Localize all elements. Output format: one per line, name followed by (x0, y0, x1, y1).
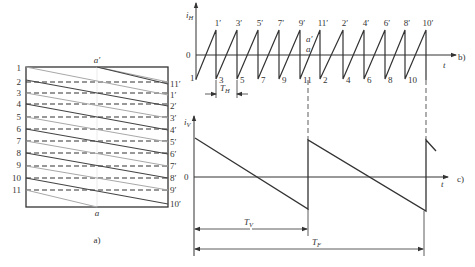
line-label: 10 (12, 173, 22, 183)
svg-text:2′: 2′ (342, 18, 349, 28)
x-axis-label: t (441, 179, 444, 189)
zero-label: 0 (184, 172, 189, 182)
peak-labels: 1′ 3′ 5′ 7′ 9′ 11′ 2′ 4′ 6′ 8′ 10′ (215, 18, 434, 28)
th-period-label: TH (220, 83, 230, 94)
line-label: 10′ (170, 199, 181, 209)
line-label: 6 (17, 124, 22, 134)
svg-text:6′: 6′ (384, 18, 391, 28)
panel-c-caption: c) (457, 174, 464, 184)
svg-text:10: 10 (408, 75, 418, 85)
top-point-label: a′ (94, 55, 102, 65)
a-label: a (306, 44, 311, 54)
svg-text:4: 4 (346, 75, 351, 85)
line-label: 4′ (170, 125, 177, 135)
line-label: 5 (17, 112, 22, 122)
line-label: 3 (17, 88, 22, 98)
line-label: 8 (17, 148, 22, 158)
line-label: 1 (17, 63, 22, 73)
line-label: 11′ (170, 79, 181, 89)
line-label: 11 (12, 185, 21, 195)
svg-text:3′: 3′ (236, 18, 243, 28)
panel-b-horizontal-current: iH 0 t b) 1′ 3′ 5′ 7′ 9′ 11′ 2′ 4′ 6′ 8′… (186, 3, 466, 140)
svg-text:9′: 9′ (299, 18, 306, 28)
right-line-labels: 11′ 1′ 2′ 3′ 4′ 5′ 6′ 7′ 8′ 9′ 10′ (170, 79, 181, 209)
svg-text:10′: 10′ (423, 18, 434, 28)
svg-text:4′: 4′ (363, 18, 370, 28)
y-axis-label: iH (186, 10, 194, 21)
panel-b-caption: b) (458, 52, 466, 62)
zero-label: 0 (186, 50, 191, 60)
left-line-labels: 1 2 3 4 5 6 7 8 9 10 11 (12, 63, 22, 195)
y-axis-label: iV (184, 117, 192, 128)
svg-text:8: 8 (388, 75, 393, 85)
tf-period-label: TF (312, 237, 322, 248)
svg-text:5: 5 (240, 75, 245, 85)
line-label: 7′ (170, 161, 177, 171)
svg-text:11′: 11′ (318, 18, 329, 28)
vertical-sawtooth-waveform (195, 138, 436, 211)
a-prime-label: a′ (306, 34, 314, 44)
panel-a-caption: a) (94, 235, 101, 245)
bottom-point-label: a (95, 208, 100, 218)
svg-text:5′: 5′ (257, 18, 264, 28)
line-label: 2′ (170, 101, 177, 111)
line-label: 4 (17, 99, 22, 109)
x-axis-label: t (443, 60, 446, 70)
tv-period-label: TV (244, 217, 254, 228)
svg-text:1′: 1′ (215, 18, 222, 28)
svg-text:7: 7 (261, 75, 266, 85)
svg-text:6: 6 (367, 75, 372, 85)
line-label: 3′ (170, 113, 177, 123)
svg-text:2: 2 (323, 75, 328, 85)
line-label: 7 (17, 136, 22, 146)
svg-text:1: 1 (190, 73, 195, 83)
svg-text:11: 11 (303, 75, 312, 85)
line-label: 1′ (170, 90, 177, 100)
svg-text:8′: 8′ (404, 18, 411, 28)
line-label: 9′ (170, 185, 177, 195)
line-label: 5′ (170, 137, 177, 147)
line-label: 2 (17, 77, 22, 87)
panel-c-vertical-current: iV 0 t c) TV TF (184, 116, 464, 256)
svg-text:7′: 7′ (278, 18, 285, 28)
scan-diagram: 1 2 3 4 5 6 7 8 9 10 11 11′ 1′ 2′ 3′ 4′ … (0, 0, 475, 267)
panel-a-raster: 1 2 3 4 5 6 7 8 9 10 11 11′ 1′ 2′ 3′ 4′ … (12, 55, 181, 245)
svg-text:9: 9 (282, 75, 287, 85)
line-label: 6′ (170, 149, 177, 159)
line-label: 9 (17, 160, 22, 170)
line-label: 8′ (170, 173, 177, 183)
